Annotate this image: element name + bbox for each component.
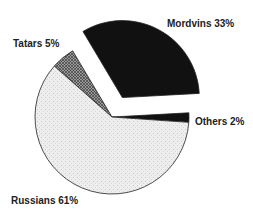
- label-mordvins: Mordvins 33%: [167, 18, 234, 29]
- slice-mordvins: [83, 21, 199, 98]
- label-tatars: Tatars 5%: [13, 38, 60, 49]
- pie-chart: Mordvins 33% Tatars 5% Others 2% Russian…: [0, 0, 253, 218]
- label-russians: Russians 61%: [11, 195, 78, 206]
- label-others: Others 2%: [195, 116, 245, 127]
